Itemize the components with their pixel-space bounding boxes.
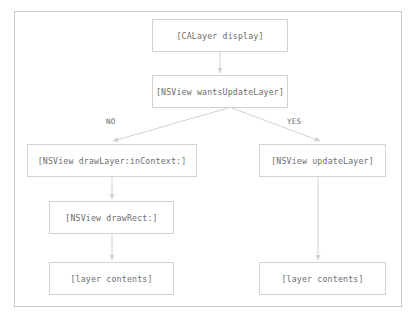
node-nsview-drawrect[interactable]: [NSView drawRect:] [49, 201, 174, 234]
edge-label-yes: YES [287, 117, 301, 126]
node-layer-contents-right[interactable]: [layer contents] [259, 262, 386, 295]
edge-label-no: NO [106, 117, 116, 126]
node-nsview-wantsupdatelayer[interactable]: [NSView wantsUpdateLayer] [152, 75, 288, 108]
node-nsview-drawlayer-incontext[interactable]: [NSView drawLayer:inContext:] [27, 144, 197, 177]
diagram-canvas: [CALayer display] [NSView wantsUpdateLay… [0, 0, 416, 321]
node-nsview-updatelayer[interactable]: [NSView updateLayer] [259, 144, 386, 177]
node-calayer-display[interactable]: [CALayer display] [152, 19, 288, 52]
node-layer-contents-left[interactable]: [layer contents] [49, 262, 174, 295]
